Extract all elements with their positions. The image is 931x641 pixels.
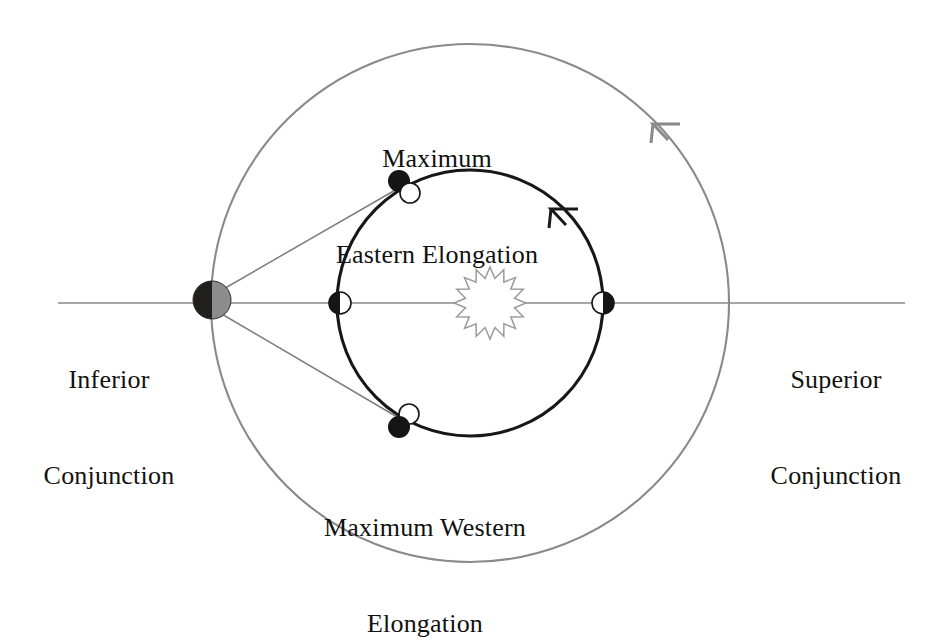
label-inferior-conjunction: Inferior Conjunction [6,301,212,555]
planet-superior-conjunction-marker [592,292,614,314]
label-line-1: Maximum [292,143,582,175]
label-line-2: Conjunction [6,460,212,492]
label-maximum-eastern-elongation: Maximum Eastern Elongation [292,80,582,334]
label-line-2: Elongation [270,608,580,640]
label-line-1: Superior [745,364,927,396]
label-superior-conjunction: Superior Conjunction [745,301,927,555]
label-line-2: Eastern Elongation [292,239,582,271]
label-line-2: Conjunction [745,460,927,492]
planet-max-western-elongation-marker [388,404,419,438]
label-line-1: Inferior [6,364,212,396]
label-line-1: Maximum Western [270,512,580,544]
label-maximum-western-elongation: Maximum Western Elongation [270,449,580,641]
